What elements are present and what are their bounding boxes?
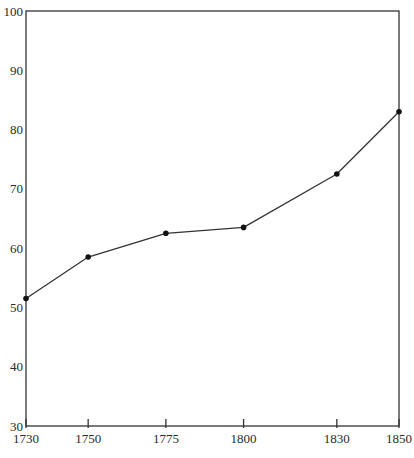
x-axis: 173017501775180018301850 <box>13 419 412 446</box>
chart-canvas: 30405060708090100 1730175017751800183018… <box>0 0 414 458</box>
data-point-marker <box>334 171 340 177</box>
y-tick-label: 100 <box>4 4 24 19</box>
y-tick-label: 60 <box>10 241 23 256</box>
y-axis: 30405060708090100 <box>4 4 24 434</box>
plot-frame <box>26 11 399 426</box>
x-tick-label: 1850 <box>386 431 412 446</box>
data-point-marker <box>163 231 169 237</box>
data-markers <box>23 109 402 301</box>
x-tick-label: 1750 <box>75 431 101 446</box>
data-point-marker <box>23 296 29 302</box>
x-tick-label: 1830 <box>324 431 350 446</box>
line-chart: 30405060708090100 1730175017751800183018… <box>0 0 414 458</box>
y-tick-label: 80 <box>10 122 23 137</box>
x-tick-label: 1800 <box>231 431 257 446</box>
y-tick-label: 40 <box>10 359 23 374</box>
x-tick-label: 1775 <box>153 431 179 446</box>
data-point-marker <box>241 225 247 231</box>
y-tick-label: 70 <box>10 181 23 196</box>
y-tick-label: 50 <box>10 300 23 315</box>
x-tick-label: 1730 <box>13 431 39 446</box>
y-tick-label: 90 <box>10 63 23 78</box>
data-point-marker <box>85 254 91 260</box>
data-point-marker <box>396 109 402 115</box>
data-line <box>26 112 399 299</box>
